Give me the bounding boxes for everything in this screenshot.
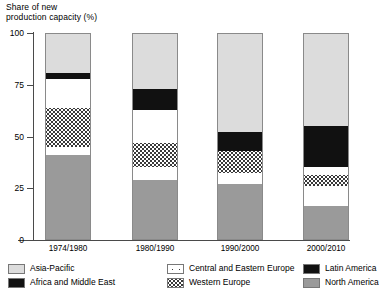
legend-swatch-latin-america [303, 264, 320, 274]
y-tick-label: 50 [0, 133, 24, 142]
bar-1980-1990 [132, 33, 178, 240]
bar-segment-asia-pacific [218, 34, 262, 132]
legend-swatch-north-america [303, 278, 320, 288]
x-tick-label-1990-2000: 1990/2000 [195, 244, 285, 253]
bar-segment-latin-america [218, 132, 262, 150]
bar-segment-africa-and-middle-east [218, 173, 262, 183]
bar-segment-asia-pacific [46, 34, 90, 73]
y-tick-label: 25 [0, 184, 24, 193]
bar-segment-north-america [218, 184, 262, 239]
bar-segment-central-and-eastern-europe [46, 79, 90, 108]
legend-item-asia-pacific[interactable]: Asia-Pacific [8, 262, 74, 275]
bar-segment-central-and-eastern-europe [133, 110, 177, 143]
legend-swatch-central-eastern-europe [167, 264, 184, 274]
legend-label-latin-america: Latin America [325, 264, 377, 273]
bar-segment-africa-and-middle-east [133, 167, 177, 179]
y-tick-label: 0 [0, 236, 24, 245]
legend-label-western-europe: Western Europe [189, 278, 250, 287]
legend-item-central-eastern-europe[interactable]: Central and Eastern Europe [167, 262, 294, 275]
legend-item-africa-middle-east[interactable]: Africa and Middle East [8, 276, 115, 289]
bar-segment-western-europe [46, 108, 90, 147]
legend-label-north-america: North America [325, 278, 379, 287]
bar-segment-asia-pacific [133, 34, 177, 89]
x-tick-label-1974-1980: 1974/1980 [23, 244, 113, 253]
legend-swatch-western-europe [167, 278, 184, 288]
chart-legend: Asia-PacificAfrica and Middle EastCentra… [8, 262, 352, 292]
bar-segment-latin-america [304, 126, 348, 167]
x-tick-label-2000-2010: 2000/2010 [281, 244, 371, 253]
y-tick-label: 100 [0, 29, 24, 38]
y-tick-mark [27, 33, 33, 34]
bar-segment-asia-pacific [304, 34, 348, 126]
bar-segment-western-europe [304, 175, 348, 185]
y-tick-mark [27, 188, 33, 189]
legend-label-africa-middle-east: Africa and Middle East [30, 278, 115, 287]
legend-item-latin-america[interactable]: Latin America [303, 262, 377, 275]
y-tick-label: 75 [0, 81, 24, 90]
legend-label-central-eastern-europe: Central and Eastern Europe [189, 264, 294, 273]
y-tick-mark [27, 85, 33, 86]
x-axis-line [18, 240, 350, 241]
bar-segment-latin-america [133, 89, 177, 110]
x-tick-label-1980-1990: 1980/1990 [110, 244, 200, 253]
bar-segment-north-america [133, 180, 177, 239]
bar-2000-2010 [303, 33, 349, 240]
legend-swatch-africa-middle-east [8, 278, 25, 288]
bar-segment-western-europe [218, 151, 262, 174]
bar-segment-africa-and-middle-east [46, 147, 90, 155]
bar-segment-north-america [46, 155, 90, 239]
y-axis-line [33, 32, 34, 241]
legend-item-western-europe[interactable]: Western Europe [167, 276, 250, 289]
legend-item-north-america[interactable]: North America [303, 276, 379, 289]
bar-1974-1980 [45, 33, 91, 240]
y-tick-mark [27, 240, 33, 241]
bar-segment-north-america [304, 206, 348, 239]
y-tick-mark [27, 137, 33, 138]
bar-segment-central-and-eastern-europe [304, 167, 348, 175]
bar-segment-africa-and-middle-east [304, 186, 348, 207]
bar-1990-2000 [217, 33, 263, 240]
chart-title: Share of new production capacity (%) [6, 2, 97, 22]
legend-swatch-asia-pacific [8, 264, 25, 274]
legend-label-asia-pacific: Asia-Pacific [30, 264, 74, 273]
bar-segment-western-europe [133, 143, 177, 168]
